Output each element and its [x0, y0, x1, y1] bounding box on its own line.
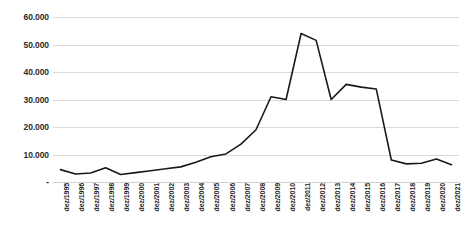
y-axis-tick-label: -: [46, 177, 49, 187]
y-axis: -10.00020.00030.00040.00050.00060.000: [0, 17, 49, 182]
x-axis-tick-label: dez/2011: [304, 183, 311, 211]
x-axis-tick-label: dez/2004: [198, 183, 205, 211]
x-axis-tick-label: dez/2019: [424, 183, 431, 211]
x-axis-tick-label: dez/2001: [153, 183, 160, 211]
plot-area: [53, 17, 459, 182]
x-axis-tick-label: dez/2015: [364, 183, 371, 211]
x-axis-tick-label: dez/2002: [168, 183, 175, 211]
x-axis-tick-label: dez/2010: [289, 183, 296, 211]
x-axis-tick-label: dez/2012: [319, 183, 326, 211]
x-axis-tick-label: dez/2006: [229, 183, 236, 211]
y-axis-tick-label: 20.000: [24, 122, 49, 132]
x-axis-tick-label: dez/2020: [439, 183, 446, 211]
y-axis-tick-label: 10.000: [24, 150, 49, 160]
x-axis-tick-label: dez/1996: [78, 183, 85, 211]
x-axis-tick-label: dez/2017: [394, 183, 401, 211]
x-axis-tick-label: dez/1995: [63, 183, 70, 211]
x-axis-tick-label: dez/2008: [259, 183, 266, 211]
y-axis-tick-label: 50.000: [24, 40, 49, 50]
line-chart: -10.00020.00030.00040.00050.00060.000 de…: [0, 0, 465, 237]
x-axis-tick-label: dez/1998: [108, 183, 115, 211]
x-axis-tick-label: dez/2016: [379, 183, 386, 211]
y-axis-tick-label: 60.000: [24, 12, 49, 22]
x-axis-tick-label: dez/1999: [123, 183, 130, 211]
x-axis: dez/1995dez/1996dez/1997dez/1998dez/1999…: [53, 183, 459, 237]
chart-title: [0, 0, 465, 10]
series-path: [61, 34, 452, 175]
x-axis-tick-label: dez/2018: [409, 183, 416, 211]
y-axis-tick-label: 40.000: [24, 67, 49, 77]
x-axis-tick-label: dez/2007: [244, 183, 251, 211]
x-axis-tick-label: dez/2009: [274, 183, 281, 211]
x-axis-tick-label: dez/2005: [213, 183, 220, 211]
y-axis-tick-label: 30.000: [24, 95, 49, 105]
x-axis-tick-label: dez/2013: [334, 183, 341, 211]
x-axis-tick-label: dez/2014: [349, 183, 356, 211]
x-axis-tick-label: dez/2003: [183, 183, 190, 211]
x-axis-tick-label: dez/1997: [93, 183, 100, 211]
series-line: [53, 17, 459, 182]
x-axis-tick-label: dez/2000: [138, 183, 145, 211]
x-axis-tick-label: dez/2021: [454, 183, 461, 211]
